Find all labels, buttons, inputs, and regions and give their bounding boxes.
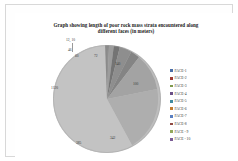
legend-item-face-1[interactable]: FACE-1 [170,67,222,75]
legend-swatch-icon [170,130,173,133]
legend-label: FACE - 9 [174,130,188,134]
legend-swatch-icon [170,92,173,95]
chart-screenshot: Graph showing length of poor rock mass s… [0,0,238,161]
slice-label-46: 46 [68,48,72,52]
legend-swatch-icon [170,69,173,72]
legend-label: FACE-6 [174,107,186,111]
legend-item-face-4[interactable]: FACE-4 [170,90,222,98]
pie-svg [53,45,161,153]
legend-label: FACE-8 [174,122,186,126]
legend-item-face-3[interactable]: FACE-3 [170,82,222,90]
slice-label-12-10: 12, 10 [66,38,75,42]
legend-item-face-5[interactable]: FACE-5 [170,97,222,105]
legend-item-face-2[interactable]: FACE-2 [170,75,222,83]
slice-label-72: 72 [94,54,98,58]
slice-label-100: 100 [133,82,138,86]
legend-label: FACE - 10 [174,137,190,141]
slice-label-342: 342 [110,136,115,140]
legend-item-face-8[interactable]: FACE-8 [170,120,222,128]
legend-swatch-icon [170,123,173,126]
legend-label: FACE-5 [174,99,186,103]
legend-label: FACE-3 [174,84,186,88]
legend-label: FACE-1 [174,69,186,73]
chart-canvas: Graph showing length of poor rock mass s… [15,13,235,158]
legend-item-face-6[interactable]: FACE-6 [170,105,222,113]
legend-label: FACE-7 [174,114,186,118]
chart-legend: FACE-1 FACE-2 FACE-3 FACE-4 FACE-5 [170,67,222,143]
legend-swatch-icon [170,107,173,110]
legend-item-face-10[interactable]: FACE - 10 [170,135,222,143]
chart-title-line-2: different faces (in meters) [29,28,223,34]
slice-label-385: 385 [76,141,81,145]
legend-swatch-icon [170,138,173,141]
legend-swatch-icon [170,85,173,88]
legend-label: FACE-4 [174,92,186,96]
slice-label-60: 60 [75,54,79,58]
legend-swatch-icon [170,77,173,80]
slice-label-140: 140 [115,62,120,66]
chart-title: Graph showing length of poor rock mass s… [29,22,223,34]
slice-label-1120: 1120 [51,86,58,90]
legend-swatch-icon [170,100,173,103]
page-frame: Graph showing length of poor rock mass s… [5,4,233,157]
legend-swatch-icon [170,115,173,118]
legend-item-face-9[interactable]: FACE - 9 [170,128,222,136]
legend-item-face-7[interactable]: FACE-7 [170,113,222,121]
legend-label: FACE-2 [174,76,186,80]
pie-chart: 12, 10 60 72 140 100 342 385 1120 46 [53,45,161,153]
callout-leader-line [72,43,73,52]
